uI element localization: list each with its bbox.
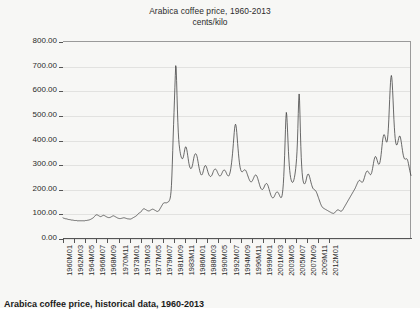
x-tick-label: 1994M09	[244, 245, 251, 276]
x-tick-mark	[241, 239, 242, 243]
chart-title: Arabica coffee price, 1960-2013	[0, 6, 420, 17]
y-tick-label: 500.00	[33, 111, 57, 119]
x-tick-label: 1962M03	[77, 245, 84, 276]
x-tick-label: 1988M03	[210, 245, 217, 276]
x-tick-label: 1964M05	[88, 245, 95, 276]
x-tick-mark	[218, 239, 219, 243]
x-tick-mark	[252, 239, 253, 243]
x-tick-mark	[163, 239, 164, 243]
x-tick-label: 2001M03	[277, 245, 284, 276]
x-tick-label: 1977M05	[155, 245, 162, 276]
x-tick-mark	[296, 239, 297, 243]
x-tick-label: 2005M07	[299, 245, 306, 276]
x-tick-label: 1992M07	[233, 245, 240, 276]
x-tick-label: 1979M07	[166, 245, 173, 276]
x-tick-label: 2012M01	[332, 245, 339, 276]
y-tick-label: 0.00	[41, 234, 57, 242]
x-tick-mark	[63, 239, 64, 243]
x-tick-mark	[130, 239, 131, 243]
y-tick-label: 600.00	[33, 86, 57, 94]
x-tick-label: 1968M09	[110, 245, 117, 276]
plot-area-wrapper	[63, 41, 411, 238]
x-tick-mark	[285, 239, 286, 243]
x-tick-mark	[307, 239, 308, 243]
x-tick-label: 1996M11	[255, 245, 262, 275]
y-tick-label: 200.00	[33, 185, 57, 193]
x-tick-mark	[196, 239, 197, 243]
x-tick-label: 1973M01	[133, 245, 140, 276]
x-tick-mark	[141, 239, 142, 243]
x-tick-label: 1990M05	[221, 245, 228, 276]
y-tick-label: 300.00	[33, 160, 57, 168]
y-tick-label: 100.00	[33, 209, 57, 217]
x-tick-label: 2003M05	[288, 245, 295, 276]
x-tick-mark	[119, 239, 120, 243]
x-tick-mark	[85, 239, 86, 243]
x-tick-mark	[152, 239, 153, 243]
x-tick-mark	[318, 239, 319, 243]
x-tick-mark	[274, 239, 275, 243]
price-series-chart	[63, 41, 411, 238]
x-tick-label: 1983M11	[188, 245, 195, 275]
x-tick-label: 1999M01	[266, 245, 273, 276]
x-tick-mark	[185, 239, 186, 243]
x-tick-mark	[96, 239, 97, 243]
x-tick-mark	[230, 239, 231, 243]
x-tick-mark	[174, 239, 175, 243]
x-tick-mark	[207, 239, 208, 243]
x-tick-mark	[329, 239, 330, 243]
x-tick-label: 1960M01	[66, 245, 73, 276]
price-series-line	[63, 66, 411, 221]
y-tick-label: 800.00	[33, 37, 57, 45]
figure-caption: Arabica coffee price, historical data, 1…	[4, 299, 204, 309]
x-tick-mark	[74, 239, 75, 243]
x-tick-mark	[263, 239, 264, 243]
gridline	[63, 239, 410, 240]
x-tick-label: 1975M03	[144, 245, 151, 276]
x-tick-label: 2009M11	[321, 245, 328, 275]
y-tick-label: 700.00	[33, 62, 57, 70]
x-tick-label: 2007M09	[310, 245, 317, 276]
x-tick-label: 1981M09	[177, 245, 184, 276]
x-tick-label: 1986M01	[199, 245, 206, 276]
x-tick-label: 1970M11	[122, 245, 129, 275]
x-tick-label: 1966M07	[99, 245, 106, 276]
x-tick-mark	[107, 239, 108, 243]
chart-subtitle: cents/kilo	[0, 17, 420, 28]
y-axis-labels: 0.00100.00200.00300.00400.00500.00600.00…	[0, 41, 57, 239]
chart-title-block: Arabica coffee price, 1960-2013 cents/ki…	[0, 6, 420, 28]
y-tick-label: 400.00	[33, 136, 57, 144]
